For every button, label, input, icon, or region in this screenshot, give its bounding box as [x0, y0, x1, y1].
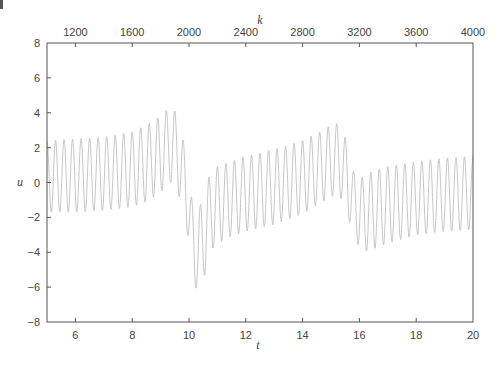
y-tick-label: 0 [34, 177, 40, 189]
y-tick-label: 2 [34, 142, 40, 154]
y-tick-label: −2 [27, 211, 40, 223]
y-tick-label: 8 [34, 37, 40, 49]
top-axis-ticks: 12001600200024002800320036004000 [63, 26, 485, 47]
x-tick-label: 20 [467, 329, 479, 341]
data-series-line [47, 110, 473, 288]
x-tick-label: 14 [296, 329, 308, 341]
x-tick-label: 12 [240, 329, 252, 341]
y-tick-label: −4 [27, 246, 40, 258]
x-tick-label: 10 [183, 329, 195, 341]
top-tick-label: 2800 [290, 26, 314, 38]
y-axis-label: u [17, 175, 23, 189]
top-tick-label: 4000 [461, 26, 485, 38]
x-tick-label: 8 [129, 329, 135, 341]
x-tick-label: 18 [410, 329, 422, 341]
top-tick-label: 3200 [347, 26, 371, 38]
waveform-path [47, 110, 473, 288]
line-chart: 68101214161820 1200160020002400280032003… [0, 0, 500, 367]
x-axis-ticks: 68101214161820 [72, 318, 479, 341]
top-tick-label: 2000 [177, 26, 201, 38]
y-tick-label: 4 [34, 107, 40, 119]
y-tick-label: −6 [27, 281, 40, 293]
x-axis-label: t [256, 338, 260, 352]
top-tick-label: 1600 [120, 26, 144, 38]
y-tick-label: 6 [34, 72, 40, 84]
y-tick-label: −8 [27, 316, 40, 328]
top-axis-label: k [257, 13, 263, 27]
plot-frame [47, 43, 473, 322]
x-tick-label: 6 [72, 329, 78, 341]
top-tick-label: 3600 [404, 26, 428, 38]
top-tick-label: 2400 [234, 26, 258, 38]
x-tick-label: 16 [353, 329, 365, 341]
top-tick-label: 1200 [63, 26, 87, 38]
